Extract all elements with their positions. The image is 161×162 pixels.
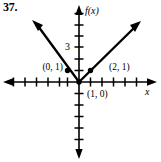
y-axis-label: f(x) (85, 5, 100, 17)
point-marker-0-1 (65, 68, 70, 73)
point-label-2-1: (2, 1) (109, 62, 130, 73)
x-axis-arrow-left (3, 78, 13, 85)
x-axis-arrow-right (147, 78, 157, 85)
point-label-1-0: (1, 0) (87, 89, 108, 100)
point-marker-2-1 (88, 68, 93, 73)
figure-container: 37. (0, 0, 161, 162)
x-axis-label: x (144, 86, 150, 97)
coordinate-plane: 3 f(x) x (0, 1) (2, 1) (1, 0) (0, 0, 161, 162)
function-curve (38, 26, 134, 82)
y-tick-label-3: 3 (65, 41, 70, 52)
point-marker-1-0 (76, 79, 81, 84)
y-axis-arrow-down (75, 149, 82, 159)
point-label-0-1: (0, 1) (42, 62, 63, 73)
